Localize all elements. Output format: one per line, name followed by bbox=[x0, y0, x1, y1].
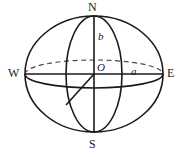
label-east: E bbox=[167, 67, 175, 79]
label-west: W bbox=[8, 67, 20, 79]
label-south: S bbox=[89, 138, 96, 150]
ellipsoid-diagram: N S W E b a O bbox=[0, 0, 186, 157]
label-semi-axis-a: a bbox=[131, 66, 137, 77]
label-semi-axis-b: b bbox=[98, 31, 104, 42]
label-origin: O bbox=[97, 62, 105, 73]
label-north: N bbox=[88, 1, 97, 13]
ellipsoid-figure-svg bbox=[0, 0, 186, 157]
radius-line bbox=[66, 74, 94, 105]
